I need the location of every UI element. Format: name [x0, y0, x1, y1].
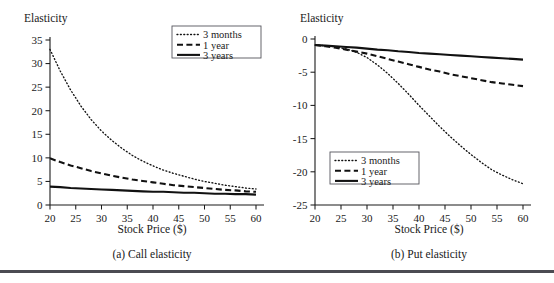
- x-tick-label: 25: [70, 212, 82, 224]
- x-tick-label: 45: [440, 212, 452, 224]
- y-axis-title-call: Elasticity: [24, 12, 68, 25]
- panel-put-elasticity: Elasticity 0-5-10-15-20-25 2025303540455…: [271, 0, 548, 268]
- y-axis-put: 0-5-10-15-20-25: [293, 33, 315, 211]
- option-elasticity-figure: Elasticity 05101520253035 20253035404550…: [0, 0, 554, 283]
- x-axis-call: 202530354045505560: [45, 205, 265, 224]
- x-tick-label: 55: [492, 212, 504, 224]
- legend-label: 3 years: [361, 176, 391, 187]
- y-tick-label: 35: [32, 34, 44, 46]
- series-line-1-year: [50, 158, 256, 191]
- legend-call: 3 months1 year3 years: [172, 26, 261, 61]
- y-tick-label: 20: [32, 105, 44, 117]
- x-tick-label: 60: [518, 212, 530, 224]
- legend-label: 3 years: [203, 50, 233, 61]
- x-axis-title-put: Stock Price ($): [395, 223, 464, 236]
- x-tick-label: 55: [225, 212, 237, 224]
- x-tick-label: 50: [466, 212, 478, 224]
- y-tick-label: -10: [293, 99, 308, 111]
- x-tick-label: 50: [199, 212, 211, 224]
- y-tick-label: -15: [293, 133, 308, 145]
- y-tick-label: -25: [293, 199, 308, 211]
- y-tick-label: 15: [32, 128, 44, 140]
- x-tick-label: 35: [388, 212, 400, 224]
- y-tick-label: -5: [298, 66, 308, 78]
- series-line-3-years: [315, 45, 523, 60]
- y-tick-label: 0: [37, 199, 43, 211]
- y-tick-label: 30: [32, 57, 44, 69]
- put-elasticity-chart: Elasticity 0-5-10-15-20-25 2025303540455…: [271, 0, 554, 268]
- x-tick-label: 20: [310, 212, 322, 224]
- call-elasticity-chart: Elasticity 05101520253035 20253035404550…: [0, 0, 277, 268]
- figure-bottom-rule: [0, 270, 554, 273]
- x-tick-label: 35: [122, 212, 134, 224]
- x-axis-put: 202530354045505560: [310, 205, 532, 224]
- y-tick-label: 0: [302, 33, 308, 45]
- x-tick-label: 45: [173, 212, 185, 224]
- series-line-3-years: [50, 187, 256, 195]
- y-tick-label: -20: [293, 166, 308, 178]
- x-tick-label: 60: [251, 212, 263, 224]
- x-tick-label: 40: [148, 212, 160, 224]
- x-tick-label: 20: [45, 212, 57, 224]
- y-tick-label: 10: [32, 152, 44, 164]
- panel-call-elasticity: Elasticity 05101520253035 20253035404550…: [0, 0, 277, 268]
- x-tick-label: 25: [336, 212, 348, 224]
- y-axis-call: 05101520253035: [32, 34, 51, 211]
- caption-put: (b) Put elasticity: [391, 248, 467, 261]
- series-group-call: [50, 49, 256, 194]
- y-axis-title-put: Elasticity: [300, 12, 344, 25]
- y-tick-label: 25: [32, 81, 44, 93]
- x-axis-title-call: Stock Price ($): [118, 223, 187, 236]
- x-tick-label: 40: [414, 212, 426, 224]
- legend-put: 3 months1 year3 years: [330, 152, 419, 187]
- x-tick-label: 30: [362, 212, 374, 224]
- x-tick-label: 30: [96, 212, 108, 224]
- series-line-1-year: [315, 45, 523, 86]
- y-tick-label: 5: [37, 175, 43, 187]
- caption-call: (a) Call elasticity: [112, 248, 191, 261]
